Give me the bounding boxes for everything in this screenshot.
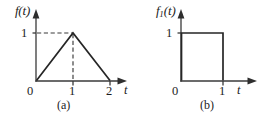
x-axis-arrowhead-b: [248, 78, 258, 85]
y-axis-arrowhead-a: [33, 9, 40, 19]
waveform-rectangle-b: [182, 33, 224, 81]
y-axis-label-a: f(t): [15, 4, 30, 19]
x-tick-label-1-b: 1: [219, 85, 225, 98]
figure-panel-b: f1(t) 1 0 1 t (b): [138, 0, 275, 117]
y-axis-arrowhead-b: [178, 9, 185, 19]
panel-caption-b: (b): [200, 99, 214, 111]
origin-label-a: 0: [27, 85, 33, 98]
y-axis-label-b: f1(t): [156, 4, 176, 19]
x-tick-label-1-a: 1: [69, 85, 75, 98]
y-tick-label-1-b: 1: [166, 27, 172, 40]
origin-label-b: 0: [172, 85, 178, 98]
panel-caption-a: (a): [57, 99, 70, 111]
figure-panel-a: f(t) 1 0 1 2 t (a): [0, 0, 137, 117]
y-tick-label-1-a: 1: [21, 27, 27, 40]
x-tick-label-2-a: 2: [106, 85, 112, 98]
y-axis-label-b-rest: (t): [164, 3, 176, 18]
x-axis-label-a: t: [124, 84, 127, 97]
figure-container: f(t) 1 0 1 2 t (a): [0, 0, 275, 117]
y-axis-label-a-rest: (t): [18, 3, 30, 18]
x-axis-label-b: t: [237, 84, 240, 97]
